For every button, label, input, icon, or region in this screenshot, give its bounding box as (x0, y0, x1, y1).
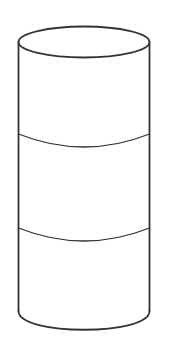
section-divider-2 (19, 228, 150, 241)
cylinder-top-ellipse (19, 27, 150, 58)
cylinder-diagram (0, 0, 169, 337)
cylinder-bottom-arc (19, 311, 150, 330)
section-divider-1 (19, 134, 150, 147)
